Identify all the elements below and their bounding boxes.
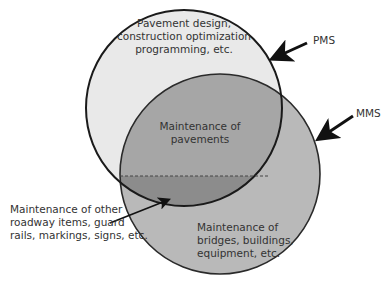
pms-description: Pavement design, construction optimizati… <box>104 17 264 56</box>
pms-arrow-icon <box>274 43 307 58</box>
pms-label: PMS <box>313 34 335 47</box>
intersection-label: Maintenance of pavements <box>140 120 260 146</box>
mms-label: MMS <box>356 107 381 120</box>
callout-label: Maintenance of other roadway items, guar… <box>10 203 150 242</box>
mms-arrow-icon <box>320 116 353 138</box>
mms-description: Maintenance of bridges, buildings, equip… <box>197 221 317 260</box>
venn-diagram: Pavement design, construction optimizati… <box>0 0 385 281</box>
